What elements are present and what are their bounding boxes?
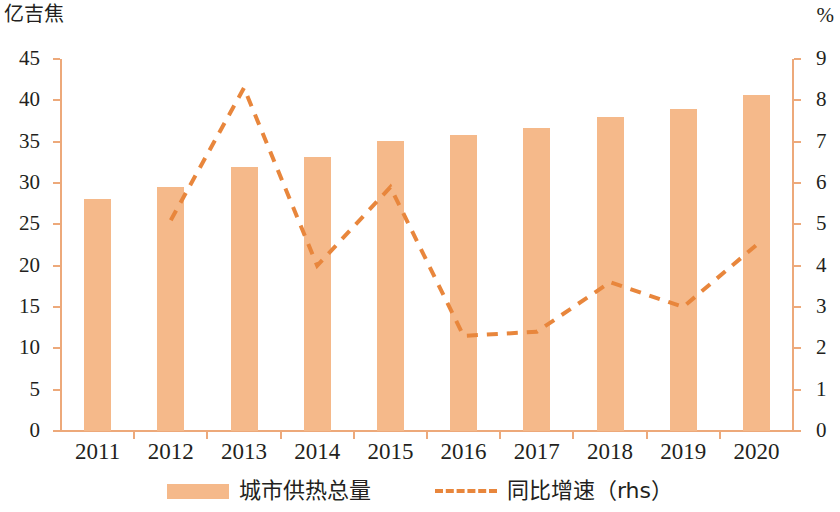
left-tick-label: 40: [19, 89, 40, 110]
x-axis-year-label: 2013: [207, 440, 280, 463]
right-tick-label: 4: [816, 255, 827, 276]
x-axis-year-label: 2011: [61, 440, 134, 463]
left-tick-label: 20: [19, 255, 40, 276]
bar: [157, 187, 184, 431]
x-tick: [206, 432, 208, 439]
left-tick-label: 0: [30, 420, 41, 441]
x-axis-year-label: 2020: [720, 440, 793, 463]
left-tick: [53, 58, 60, 60]
legend-item-line: 同比增速（rhs）: [435, 480, 673, 502]
left-tick: [53, 306, 60, 308]
x-axis-year-label: 2014: [281, 440, 354, 463]
right-tick-label: 3: [816, 296, 827, 317]
right-tick-label: 2: [816, 337, 827, 358]
x-tick: [646, 432, 648, 439]
right-tick: [794, 306, 801, 308]
left-tick: [53, 347, 60, 349]
x-tick: [426, 432, 428, 439]
bar: [231, 167, 258, 431]
left-tick: [53, 223, 60, 225]
right-tick: [794, 430, 801, 432]
left-tick-label: 35: [19, 131, 40, 152]
x-axis-year-label: 2012: [134, 440, 207, 463]
right-tick-label: 0: [816, 420, 827, 441]
chart-legend: 城市供热总量 同比增速（rhs）: [0, 480, 840, 502]
bar: [523, 128, 550, 431]
left-tick-label: 30: [19, 172, 40, 193]
x-tick: [280, 432, 282, 439]
right-tick: [794, 223, 801, 225]
left-tick: [53, 182, 60, 184]
right-tick: [794, 389, 801, 391]
right-axis-unit-label: %: [817, 5, 835, 26]
right-tick: [794, 141, 801, 143]
x-tick: [499, 432, 501, 439]
legend-line-swatch: [435, 489, 497, 493]
x-axis-year-label: 2018: [573, 440, 646, 463]
legend-bar-label: 城市供热总量: [239, 480, 371, 502]
x-tick: [133, 432, 135, 439]
x-axis-year-label: 2019: [647, 440, 720, 463]
left-tick-label: 5: [30, 379, 41, 400]
left-tick-label: 45: [19, 48, 40, 69]
x-axis-year-label: 2015: [354, 440, 427, 463]
right-tick-label: 8: [816, 89, 827, 110]
left-axis-unit-label: 亿吉焦: [4, 4, 64, 24]
left-tick: [53, 99, 60, 101]
right-tick-label: 5: [816, 213, 827, 234]
right-tick-label: 6: [816, 172, 827, 193]
bar: [670, 109, 697, 431]
x-axis-year-label: 2017: [500, 440, 573, 463]
left-tick: [53, 141, 60, 143]
plot-area: 051015202530354045 0123456789: [61, 59, 793, 431]
left-tick-label: 25: [19, 213, 40, 234]
x-tick: [572, 432, 574, 439]
legend-line-label: 同比增速（rhs）: [507, 480, 673, 502]
right-tick-label: 9: [816, 48, 827, 69]
left-tick: [53, 389, 60, 391]
left-tick-label: 10: [19, 337, 40, 358]
bar: [743, 95, 770, 431]
bar: [304, 157, 331, 431]
left-axis-line: [60, 59, 62, 431]
bar: [450, 135, 477, 431]
right-tick: [794, 265, 801, 267]
bar: [597, 117, 624, 431]
legend-item-bar: 城市供热总量: [167, 480, 371, 502]
x-tick: [353, 432, 355, 439]
left-tick-label: 15: [19, 296, 40, 317]
legend-bar-swatch: [167, 484, 229, 499]
bar: [377, 141, 404, 431]
right-tick-label: 1: [816, 379, 827, 400]
right-tick: [794, 347, 801, 349]
right-tick: [794, 99, 801, 101]
right-tick: [794, 182, 801, 184]
right-tick-label: 7: [816, 131, 827, 152]
right-axis-line: [792, 59, 794, 431]
left-tick: [53, 265, 60, 267]
chart-container: 亿吉焦 % 051015202530354045 0123456789 2011…: [0, 0, 840, 512]
bar: [84, 199, 111, 431]
right-tick: [794, 58, 801, 60]
x-tick: [719, 432, 721, 439]
x-axis-year-label: 2016: [427, 440, 500, 463]
left-tick: [53, 430, 60, 432]
